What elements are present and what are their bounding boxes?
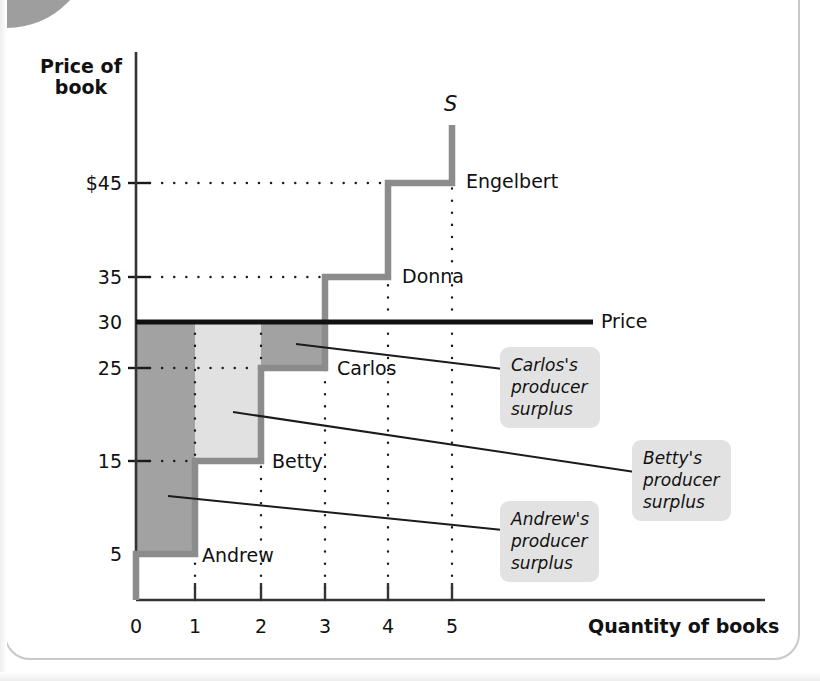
y-tick-label-15: 15 — [54, 450, 122, 472]
producer-surplus-figure: Price of book Quantity of books $45 35 3… — [0, 0, 820, 681]
price-line-label: Price — [601, 310, 647, 332]
x-tick-label-3: 3 — [313, 615, 337, 637]
supply-curve-label: S — [444, 92, 457, 116]
seller-label-carlos: Carlos — [337, 357, 397, 379]
y-axis-title: Price of book — [40, 56, 122, 99]
y-tick-label-45: $45 — [54, 172, 122, 194]
x-tick-marks — [195, 583, 452, 600]
callout-andrew-producer-surplus: Andrew's producer surplus — [500, 501, 599, 582]
y-tick-label-5: 5 — [54, 543, 122, 565]
leader-line-andrew — [168, 496, 503, 530]
seller-label-engelbert: Engelbert — [466, 170, 558, 192]
y-tick-label-30: 30 — [54, 311, 122, 333]
surplus-region-andrew — [136, 322, 195, 554]
seller-label-andrew: Andrew — [202, 544, 274, 566]
x-tick-label-1: 1 — [183, 615, 207, 637]
x-tick-label-2: 2 — [249, 615, 273, 637]
seller-label-betty: Betty — [272, 450, 323, 472]
seller-label-donna: Donna — [402, 265, 464, 287]
x-axis-title: Quantity of books — [588, 616, 779, 637]
callout-betty-producer-surplus: Betty's producer surplus — [632, 440, 731, 521]
x-tick-label-5: 5 — [440, 615, 464, 637]
x-tick-label-0: 0 — [124, 615, 148, 637]
surplus-region-betty — [195, 322, 261, 461]
y-tick-label-35: 35 — [54, 266, 122, 288]
x-tick-label-4: 4 — [376, 615, 400, 637]
callout-carlos-producer-surplus: Carlos's producer surplus — [500, 347, 600, 428]
surplus-region-carlos — [261, 322, 325, 368]
y-tick-label-25: 25 — [54, 357, 122, 379]
chart-canvas — [0, 0, 820, 681]
